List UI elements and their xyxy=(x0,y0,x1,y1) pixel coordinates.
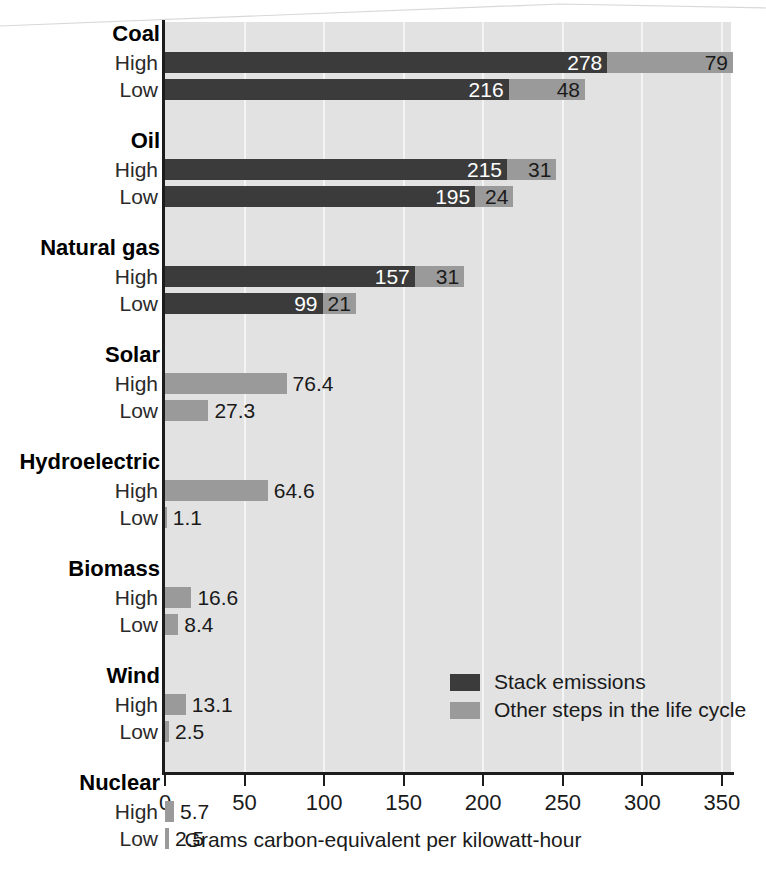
row-label-nuclear-high: High xyxy=(115,800,158,824)
bar-segment-other: 31 xyxy=(415,266,464,287)
bar-value-outside: 1.1 xyxy=(167,507,202,528)
x-axis-line xyxy=(162,772,734,775)
x-tick-50 xyxy=(244,775,246,786)
bar-value-other: 24 xyxy=(485,186,513,207)
legend-swatch-other-icon xyxy=(450,702,480,719)
chart-legend: Stack emissions Other steps in the life … xyxy=(450,668,746,724)
bar-segment-other xyxy=(165,587,191,608)
x-tick-0 xyxy=(164,775,166,786)
row-label-natural-gas-low: Low xyxy=(119,292,158,316)
bar-oil-low: 19524 xyxy=(165,186,513,207)
bar-biomass-low xyxy=(165,614,178,635)
bar-segment-other: 79 xyxy=(607,52,733,73)
group-label-hydroelectric: Hydroelectric xyxy=(19,449,160,475)
bar-segment-other xyxy=(165,801,174,822)
bar-segment-other: 31 xyxy=(507,159,556,180)
group-label-coal: Coal xyxy=(112,21,160,47)
gridline-350 xyxy=(721,22,723,772)
bar-segment-other xyxy=(165,614,178,635)
bar-oil-high: 21531 xyxy=(165,159,556,180)
emissions-bar-chart: 050100150200250300350 CoalHighLowOilHigh… xyxy=(0,0,766,871)
bar-value-stack: 278 xyxy=(567,52,607,73)
bar-segment-stack: 195 xyxy=(165,186,475,207)
bar-value-other: 31 xyxy=(528,159,556,180)
bar-value-other: 21 xyxy=(328,293,356,314)
bar-segment-stack: 99 xyxy=(165,293,323,314)
bar-value-other: 31 xyxy=(436,266,464,287)
gridline-250 xyxy=(562,22,564,772)
gridline-100 xyxy=(323,22,325,772)
x-axis-title: Grams carbon-equivalent per kilowatt-hou… xyxy=(0,828,766,852)
x-tick-label-100: 100 xyxy=(306,790,343,816)
row-label-coal-high: High xyxy=(115,51,158,75)
bar-segment-other: 48 xyxy=(509,79,585,100)
bar-segment-stack: 215 xyxy=(165,159,507,180)
x-tick-label-350: 350 xyxy=(703,790,740,816)
legend-label-stack: Stack emissions xyxy=(494,670,646,694)
bar-value-outside: 2.5 xyxy=(169,721,204,742)
bar-segment-other xyxy=(165,373,287,394)
bar-segment-other xyxy=(165,480,268,501)
x-tick-label-50: 50 xyxy=(232,790,256,816)
bar-solar-high xyxy=(165,373,287,394)
bar-segment-other xyxy=(165,400,208,421)
x-tick-200 xyxy=(482,775,484,786)
bar-value-stack: 215 xyxy=(467,159,507,180)
bar-segment-stack: 278 xyxy=(165,52,607,73)
bar-natural-gas-low: 9921 xyxy=(165,293,356,314)
gridline-150 xyxy=(403,22,405,772)
bar-segment-other: 24 xyxy=(475,186,513,207)
x-tick-250 xyxy=(562,775,564,786)
bar-nuclear-high xyxy=(165,801,174,822)
bar-value-other: 48 xyxy=(557,79,585,100)
bar-coal-high: 27879 xyxy=(165,52,733,73)
bar-value-outside: 13.1 xyxy=(186,694,233,715)
bar-value-stack: 157 xyxy=(375,266,415,287)
bar-coal-low: 21648 xyxy=(165,79,585,100)
bar-value-stack: 216 xyxy=(469,79,509,100)
row-label-solar-high: High xyxy=(115,372,158,396)
row-label-natural-gas-high: High xyxy=(115,265,158,289)
gridline-300 xyxy=(641,22,643,772)
x-tick-350 xyxy=(721,775,723,786)
bar-segment-stack: 157 xyxy=(165,266,415,287)
bar-natural-gas-high: 15731 xyxy=(165,266,464,287)
legend-label-other: Other steps in the life cycle xyxy=(494,698,746,722)
group-label-biomass: Biomass xyxy=(68,556,160,582)
y-axis-line xyxy=(162,20,165,774)
group-label-wind: Wind xyxy=(106,663,160,689)
bar-segment-other xyxy=(165,694,186,715)
bar-biomass-high xyxy=(165,587,191,608)
x-tick-150 xyxy=(403,775,405,786)
legend-item-other-steps: Other steps in the life cycle xyxy=(450,696,746,724)
row-label-wind-low: Low xyxy=(119,720,158,744)
bar-value-stack: 195 xyxy=(435,186,475,207)
x-tick-300 xyxy=(641,775,643,786)
x-tick-label-200: 200 xyxy=(465,790,502,816)
x-tick-label-250: 250 xyxy=(544,790,581,816)
legend-swatch-stack-icon xyxy=(450,674,480,691)
gridline-50 xyxy=(244,22,246,772)
plot-area xyxy=(165,22,731,772)
row-label-hydroelectric-high: High xyxy=(115,479,158,503)
row-label-coal-low: Low xyxy=(119,78,158,102)
row-label-hydroelectric-low: Low xyxy=(119,506,158,530)
bar-value-outside: 5.7 xyxy=(174,801,209,822)
group-label-solar: Solar xyxy=(105,342,160,368)
legend-item-stack-emissions: Stack emissions xyxy=(450,668,746,696)
bar-value-outside: 76.4 xyxy=(287,373,334,394)
bar-value-other: 79 xyxy=(705,52,733,73)
bar-solar-low xyxy=(165,400,208,421)
bar-segment-other: 21 xyxy=(323,293,356,314)
x-tick-label-300: 300 xyxy=(624,790,661,816)
row-label-oil-low: Low xyxy=(119,185,158,209)
row-label-biomass-low: Low xyxy=(119,613,158,637)
bar-value-outside: 27.3 xyxy=(208,400,255,421)
group-label-natural-gas: Natural gas xyxy=(40,235,160,261)
bar-value-outside: 8.4 xyxy=(178,614,213,635)
row-label-oil-high: High xyxy=(115,158,158,182)
gridline-200 xyxy=(482,22,484,772)
row-label-wind-high: High xyxy=(115,693,158,717)
row-label-solar-low: Low xyxy=(119,399,158,423)
x-tick-100 xyxy=(323,775,325,786)
